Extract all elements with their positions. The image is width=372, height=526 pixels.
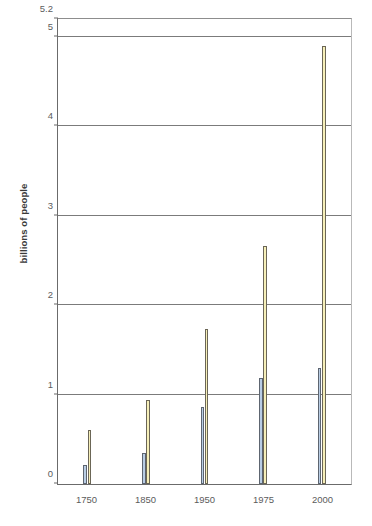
x-tick-label: 1750 bbox=[76, 494, 97, 505]
figure-caption bbox=[10, 514, 210, 526]
bar-1975-cream bbox=[263, 246, 267, 484]
y-axis-title: billions of people bbox=[18, 164, 29, 284]
bar-group bbox=[175, 19, 234, 484]
bar-group bbox=[117, 19, 176, 484]
bar-group bbox=[58, 19, 117, 484]
bar-1750-cream bbox=[88, 430, 92, 484]
bar-series-container bbox=[58, 19, 351, 484]
y-tick-label: 4 bbox=[48, 110, 53, 121]
bar-1950-cream bbox=[205, 329, 209, 484]
x-tick-label: 2000 bbox=[312, 494, 333, 505]
bar-1850-blue bbox=[142, 453, 146, 484]
y-tick-label: 3 bbox=[48, 199, 53, 210]
bar-2000-blue bbox=[318, 368, 322, 484]
bar-group bbox=[292, 19, 351, 484]
x-tick-label: 1850 bbox=[135, 494, 156, 505]
y-tick-label: 2 bbox=[48, 289, 53, 300]
bar-1850-cream bbox=[146, 400, 150, 484]
bar-2000-cream bbox=[322, 46, 326, 484]
y-tick-label: 1 bbox=[48, 378, 53, 389]
bar-1950-blue bbox=[201, 407, 205, 484]
x-axis-ticks: 17501850195019752000 bbox=[57, 489, 352, 511]
y-tick-label: 5.2 bbox=[40, 3, 53, 14]
x-tick-label: 1975 bbox=[253, 494, 274, 505]
bar-group bbox=[234, 19, 293, 484]
x-tick-label: 1950 bbox=[194, 494, 215, 505]
bar-1750-blue bbox=[83, 465, 87, 484]
bar-1975-blue bbox=[259, 378, 263, 484]
y-tick-label: 5 bbox=[48, 20, 53, 31]
population-bar-chart: billions of people 0123455.2 17501850195… bbox=[0, 0, 372, 526]
y-tick-label: 0 bbox=[48, 468, 53, 479]
plot-area: 0123455.2 bbox=[57, 18, 352, 485]
